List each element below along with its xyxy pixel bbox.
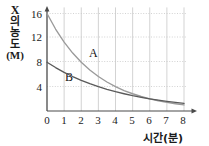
y-axis-arrow-icon — [45, 6, 50, 12]
axis-lines — [45, 6, 197, 113]
plot-area — [0, 0, 209, 146]
chart-figure: X 의 농 도 (M) 시간(분) 16 12 8 4 0 1 2 3 4 5 … — [0, 0, 209, 146]
x-axis-arrow-icon — [192, 109, 198, 114]
gridlines — [47, 7, 186, 111]
